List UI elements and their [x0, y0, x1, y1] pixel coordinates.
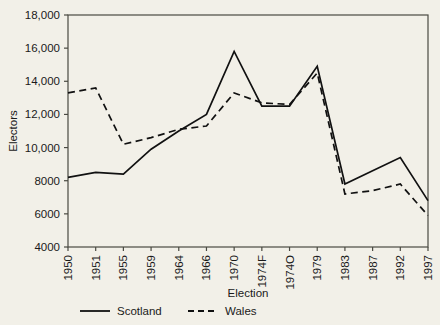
- x-tick-label: 1951: [90, 255, 102, 281]
- x-tick-label: 1970: [228, 255, 240, 281]
- x-tick-label: 1966: [200, 255, 212, 281]
- y-tick-label: 4000: [34, 241, 60, 253]
- legend-label-scotland: Scotland: [117, 305, 162, 317]
- y-tick-label: 10,000: [25, 142, 60, 154]
- x-tick-label: 1997: [422, 255, 434, 281]
- x-tick-label: 1979: [311, 255, 323, 281]
- series-line-wales: [68, 73, 428, 216]
- chart-legend: ScotlandWales: [80, 305, 257, 317]
- x-axis-title: Election: [228, 287, 269, 299]
- y-tick-label: 14,000: [25, 75, 60, 87]
- series-line-scotland: [68, 51, 428, 200]
- data-series-group: [68, 51, 428, 215]
- x-tick-label: 1974O: [284, 255, 296, 290]
- x-tick-label: 1992: [394, 255, 406, 281]
- plot-frame: [68, 15, 428, 247]
- x-tick-label: 1983: [339, 255, 351, 281]
- y-tick-label: 16,000: [25, 42, 60, 54]
- chart-svg: 18,00016,00014,00012,00010,0008000600040…: [0, 0, 440, 325]
- y-axis-title: Electors: [7, 110, 19, 152]
- y-tick-label: 12,000: [25, 108, 60, 120]
- x-tick-label: 1964: [173, 254, 185, 280]
- y-tick-label: 6000: [34, 208, 60, 220]
- x-tick-label: 1987: [367, 255, 379, 281]
- legend-label-wales: Wales: [225, 305, 257, 317]
- x-tick-label: 1974F: [256, 255, 268, 288]
- x-tick-label: 1950: [62, 255, 74, 281]
- y-tick-label: 18,000: [25, 9, 60, 21]
- chart-figure: 18,00016,00014,00012,00010,0008000600040…: [0, 0, 440, 325]
- y-tick-label: 8000: [34, 175, 60, 187]
- x-axis-ticks: 19501951195519591964196619701974F1974O19…: [62, 247, 434, 290]
- y-axis-ticks: 18,00016,00014,00012,00010,0008000600040…: [25, 9, 68, 253]
- x-tick-label: 1955: [117, 255, 129, 281]
- x-tick-label: 1959: [145, 255, 157, 281]
